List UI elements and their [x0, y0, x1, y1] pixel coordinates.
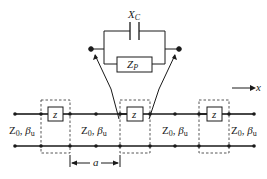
segment-label-2: Z0, βu	[81, 124, 107, 138]
series-element-label-1: z	[52, 108, 58, 120]
segment-label-3: Z0, βu	[162, 124, 188, 138]
x-axis-label: x	[255, 81, 261, 93]
pointer-arrow-right	[159, 55, 175, 89]
pointer-arrow-left	[95, 55, 111, 89]
segment-label-1: Z0, βu	[9, 124, 35, 138]
segment-label-4: Z0, βu	[231, 124, 257, 138]
series-element-label-2: z	[131, 108, 137, 120]
x-axis-arrow	[232, 85, 256, 91]
series-element-label-3: z	[211, 108, 217, 120]
diagram-canvas: XC ZP x z z z	[0, 0, 267, 179]
capacitor-label: XC	[127, 8, 141, 22]
period-label: a	[93, 156, 99, 168]
